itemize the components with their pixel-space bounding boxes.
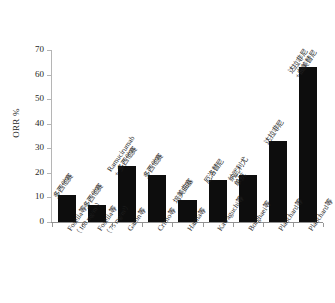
y-tick-label: 20 [22, 168, 44, 177]
x-tick-mark [233, 223, 234, 227]
bar [269, 141, 287, 222]
y-tick-mark [47, 197, 51, 198]
y-tick-label: 0 [22, 217, 44, 226]
y-tick-label: 70 [22, 45, 44, 54]
x-tick-mark [323, 223, 324, 227]
bar [299, 67, 317, 222]
y-tick-mark [47, 75, 51, 76]
y-tick-label: 50 [22, 94, 44, 103]
y-tick-mark [47, 173, 51, 174]
x-tick-mark [203, 223, 204, 227]
y-tick-mark [47, 148, 51, 149]
y-tick-mark [47, 99, 51, 100]
y-tick-mark [47, 50, 51, 51]
y-tick-label: 30 [22, 143, 44, 152]
x-tick-mark [142, 223, 143, 227]
x-tick-mark [263, 223, 264, 227]
y-tick-label: 40 [22, 119, 44, 128]
x-tick-mark [172, 223, 173, 227]
x-tick-mark [293, 223, 294, 227]
y-tick-mark [47, 124, 51, 125]
x-tick-mark [52, 223, 53, 227]
y-tick-label: 60 [22, 70, 44, 79]
y-axis-title: ORR % [11, 93, 21, 153]
y-tick-label: 10 [22, 192, 44, 201]
